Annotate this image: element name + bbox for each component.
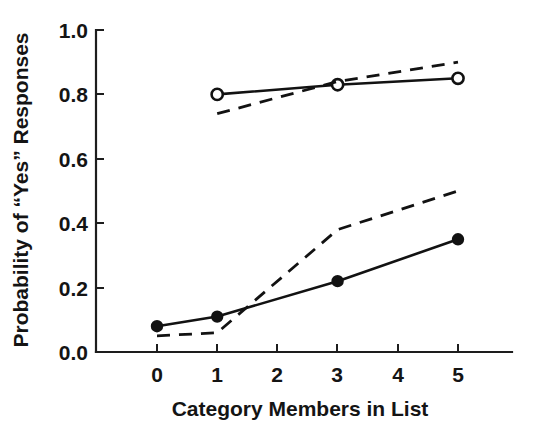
x-tick-label-2: 2	[271, 363, 283, 386]
data-point-observed-low-3	[332, 276, 342, 286]
series-layer	[152, 62, 464, 336]
data-point-observed-low-0	[152, 321, 162, 331]
data-point-observed-low-5	[453, 234, 463, 244]
figure-container: 1.0 0.8 0.6 0.4 0.2 0.0 0 1 2 3 4 5 Cate…	[0, 0, 535, 431]
y-tick-label-0.8: 0.8	[59, 83, 89, 106]
y-tick-label-0.2: 0.2	[59, 277, 88, 300]
data-point-observed-low-1	[212, 311, 222, 321]
series-line-predicted-low	[157, 191, 458, 336]
x-tick-label-3: 3	[331, 363, 343, 386]
x-tick-label-1: 1	[211, 363, 223, 386]
data-point-observed-high-3	[332, 79, 343, 90]
data-point-observed-high-5	[452, 73, 463, 84]
y-tick-label-1.0: 1.0	[59, 19, 88, 42]
y-tick-label-0.6: 0.6	[59, 148, 88, 171]
x-tick-label-4: 4	[392, 363, 404, 386]
data-point-observed-high-1	[212, 89, 223, 100]
y-tick-label-0.0: 0.0	[59, 341, 88, 364]
y-tick-label-0.4: 0.4	[59, 212, 89, 235]
x-tick-label-0: 0	[151, 363, 163, 386]
y-axis-title: Probability of “Yes” Responses	[9, 32, 32, 347]
line-chart: 1.0 0.8 0.6 0.4 0.2 0.0 0 1 2 3 4 5 Cate…	[0, 0, 535, 431]
x-tick-label-5: 5	[452, 363, 464, 386]
series-line-observed-low	[157, 239, 458, 326]
x-axis-title: Category Members in List	[172, 397, 429, 420]
